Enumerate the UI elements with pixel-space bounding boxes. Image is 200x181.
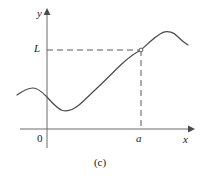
open-circle-marker-icon — [139, 48, 143, 52]
figure-container: y x L a 0 (c) — [0, 0, 200, 181]
x-axis-label: x — [183, 134, 188, 145]
graph-canvas — [0, 0, 200, 181]
x-value-label-a: a — [136, 133, 142, 144]
arrow-up-icon — [44, 8, 51, 15]
arrow-right-icon — [188, 126, 195, 133]
y-value-label-L: L — [34, 43, 40, 54]
function-curve — [17, 32, 188, 111]
figure-caption: (c) — [0, 157, 200, 168]
y-axis-label: y — [37, 8, 42, 19]
origin-label: 0 — [37, 133, 43, 144]
